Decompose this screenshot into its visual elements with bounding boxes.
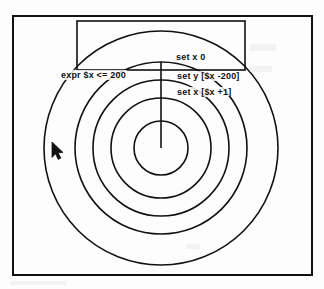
- code-label-set-y: set y [$x -200]: [176, 71, 241, 81]
- code-label-set-x-zero: set x 0: [175, 52, 206, 62]
- code-label-set-x-increment: set x [$x +1]: [176, 87, 232, 97]
- scan-artifact: [250, 66, 272, 72]
- code-label-expr: expr $x <= 200: [60, 70, 127, 80]
- scan-artifact: [250, 44, 276, 51]
- canvas-screen: expr $x <= 200 set x 0 set y [$x -200] s…: [0, 0, 324, 289]
- mouse-pointer-icon: [51, 141, 65, 161]
- scan-artifact: [186, 244, 200, 249]
- scan-artifact: [10, 281, 66, 285]
